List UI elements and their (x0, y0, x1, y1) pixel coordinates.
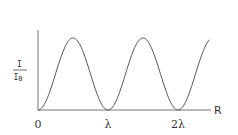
y-label-numerator: I (17, 60, 22, 69)
intensity-chart: I I0 R 0 λ 2λ (0, 0, 238, 135)
x-axis-label: R (214, 104, 222, 117)
x-tick-2lambda: 2λ (171, 118, 185, 131)
y-label-denominator: I0 (13, 73, 22, 83)
x-tick-0: 0 (35, 118, 42, 131)
intensity-curve (38, 38, 210, 110)
x-tick-lambda: λ (105, 118, 112, 131)
